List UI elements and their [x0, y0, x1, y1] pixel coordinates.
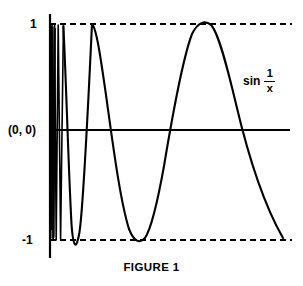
plot-canvas	[0, 0, 303, 286]
figure-sin-one-over-x: 1 (0, 0) -1 sin 1 x FIGURE 1	[0, 0, 303, 286]
fraction-denominator: x	[265, 82, 275, 95]
dense-oscillation-band	[50, 24, 63, 240]
curve-function-annotation: sin 1 x	[243, 68, 275, 95]
function-name-label: sin	[243, 75, 260, 87]
fraction-numerator: 1	[265, 68, 275, 81]
y-axis-label-one: 1	[30, 18, 37, 30]
figure-caption: FIGURE 1	[0, 261, 303, 273]
fraction-one-over-x: 1 x	[264, 68, 275, 95]
origin-label: (0, 0)	[8, 124, 36, 136]
y-axis-label-negative-one: -1	[22, 234, 33, 246]
curve-sin-one-over-x	[63, 22, 283, 244]
